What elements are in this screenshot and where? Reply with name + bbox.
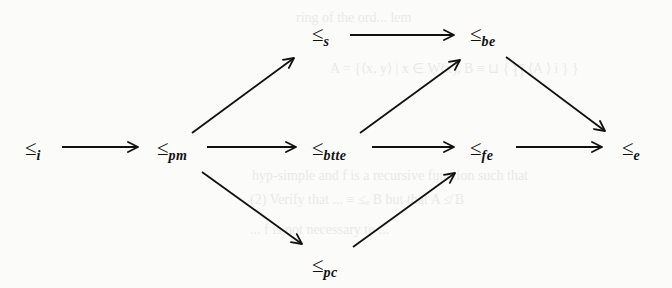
arrow-pm-to-s [192,58,294,133]
leq-symbol: ≤ [312,138,324,159]
node-btte: ≤btte [312,138,347,163]
node-fe: ≤fe [470,138,493,163]
node-subscript: be [482,34,496,49]
node-subscript: e [634,148,641,163]
node-be: ≤be [470,24,496,49]
leq-symbol: ≤ [312,255,324,276]
arrow-be-to-e [506,57,605,131]
leq-symbol: ≤ [25,138,37,159]
node-subscript: fe [482,148,494,163]
node-subscript: pc [324,265,338,280]
leq-symbol: ≤ [157,138,169,159]
node-subscript: s [324,34,330,49]
leq-symbol: ≤ [470,138,482,159]
leq-symbol: ≤ [470,24,482,45]
node-pc: ≤pc [312,255,338,280]
node-s: ≤s [312,24,329,49]
leq-symbol: ≤ [622,138,634,159]
arrow-pm-to-pc [202,172,302,244]
node-i: ≤i [25,138,41,163]
node-pm: ≤pm [157,138,187,163]
leq-symbol: ≤ [312,24,324,45]
node-e: ≤e [622,138,640,163]
node-subscript: i [37,148,41,163]
arrow-pc-to-fe [353,173,455,247]
node-subscript: btte [324,148,347,163]
diagram-canvas: ring of the ord... lemA = {⟨x, y⟩ | x ∈ … [0,0,672,288]
arrow-btte-to-be [360,60,460,133]
node-subscript: pm [169,148,188,163]
